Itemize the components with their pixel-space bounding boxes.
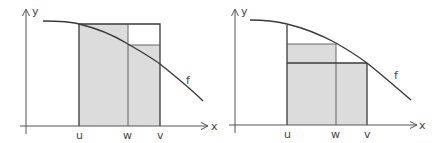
right-x-label: x — [419, 119, 426, 132]
left-unshaded-box — [128, 24, 160, 45]
right-upper-left-rectangle — [287, 44, 336, 63]
right-tick-v: v — [364, 128, 371, 141]
right-y-label: y — [241, 5, 248, 18]
right-tick-w: w — [331, 128, 340, 141]
left-tick-v: v — [157, 129, 164, 142]
right-lower-rectangle — [287, 63, 367, 125]
right-tick-u: u — [284, 128, 291, 141]
left-panel: y x f u w v — [20, 5, 218, 142]
right-curve-label: f — [394, 69, 399, 82]
left-y-label: y — [32, 5, 39, 18]
right-panel: y x f u w v — [229, 5, 426, 141]
left-tick-u: u — [76, 129, 83, 142]
riemann-diagram: y x f u w v y x f u w v — [0, 0, 442, 143]
left-x-label: x — [211, 120, 218, 133]
left-tick-w: w — [123, 129, 132, 142]
left-curve-label: f — [186, 74, 191, 87]
